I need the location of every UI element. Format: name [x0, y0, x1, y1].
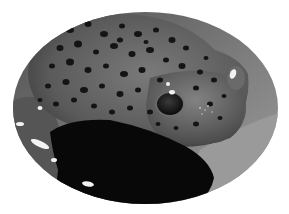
snout-bump	[227, 66, 245, 90]
spot	[38, 98, 43, 102]
spot	[211, 78, 217, 83]
spot	[120, 71, 128, 77]
spot	[197, 70, 203, 75]
spot	[183, 46, 189, 51]
highlight	[38, 106, 43, 110]
eye	[157, 93, 183, 115]
spot	[117, 38, 123, 43]
spot	[156, 122, 161, 126]
spot	[85, 67, 92, 73]
spot	[117, 91, 124, 97]
spot	[146, 47, 154, 53]
spot	[45, 84, 51, 89]
spot	[57, 45, 64, 51]
spot	[74, 41, 82, 48]
highlight	[51, 158, 57, 162]
salamander-photo	[0, 0, 289, 214]
spot	[63, 79, 70, 85]
spot	[100, 31, 108, 37]
spot	[66, 27, 74, 33]
spot	[110, 43, 118, 49]
spot	[103, 64, 109, 69]
spot	[91, 104, 97, 109]
spot	[66, 59, 74, 66]
highlight	[16, 122, 24, 126]
spot	[139, 67, 146, 73]
spot	[119, 24, 125, 29]
spot	[144, 40, 149, 44]
spot	[218, 116, 223, 120]
spot	[85, 21, 92, 27]
spot	[80, 87, 88, 93]
spot	[93, 50, 99, 55]
spot	[153, 28, 159, 33]
spot	[99, 84, 105, 89]
spot	[157, 78, 163, 83]
spot	[204, 56, 209, 60]
highlight	[166, 82, 170, 86]
spot	[222, 94, 227, 98]
spot	[53, 102, 59, 107]
spot	[49, 64, 55, 69]
spot	[179, 63, 186, 69]
spot	[134, 31, 142, 37]
spot	[193, 86, 199, 91]
spot	[147, 110, 153, 115]
spot	[71, 98, 77, 103]
oval-vignette	[0, 0, 289, 214]
spot	[163, 58, 169, 63]
spot	[127, 106, 133, 111]
spot	[169, 37, 176, 43]
spot	[109, 110, 115, 115]
spot	[174, 126, 179, 130]
highlight	[169, 90, 175, 94]
spot	[193, 122, 199, 127]
spot	[129, 51, 136, 57]
spot	[135, 88, 141, 93]
